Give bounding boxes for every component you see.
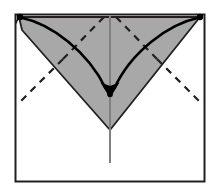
fold-diagram-canvas: Origami fold step diagram Square sheet w… bbox=[0, 0, 217, 191]
corner-dot-top-right bbox=[197, 14, 203, 20]
corner-dot-top-left bbox=[17, 14, 23, 20]
target-dot-center bbox=[107, 92, 113, 98]
origami-fold-diagram: Origami fold step diagram Square sheet w… bbox=[0, 0, 217, 191]
